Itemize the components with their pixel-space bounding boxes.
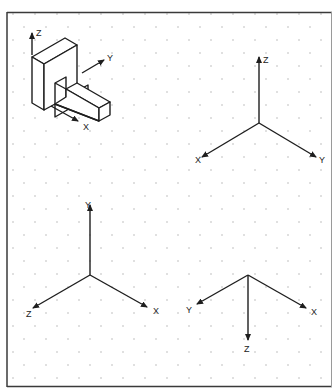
object-axis-y-label: Y [107, 53, 113, 63]
triad-top-right-z-label: Z [263, 55, 269, 65]
triad-top-right-x-label: X [195, 155, 201, 165]
triad-top-right-y-label: Y [319, 155, 325, 165]
triad-bottom-right-x-label: X [311, 307, 317, 317]
object-axis-x-label: X [83, 122, 89, 132]
triad-bottom-right-y-label: Y [186, 305, 192, 315]
triad-bottom-left-x-label: X [153, 306, 159, 316]
triad-bottom-left-y-label: Y [85, 200, 91, 210]
object-axis-z-label: Z [36, 28, 42, 38]
triad-bottom-left-z-label: Z [26, 309, 32, 319]
isometric-drawing-sheet: Z Y X Z X Y Y Z X Y X Z [0, 0, 333, 389]
triad-bottom-right-z-label: Z [244, 344, 250, 354]
